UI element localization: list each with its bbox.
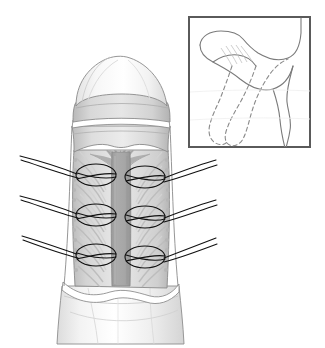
orientation-inset[interactable] bbox=[189, 17, 310, 148]
surgical-illustration-svg bbox=[0, 0, 325, 348]
figure-root: Longitudinal sectional view of the deglo… bbox=[0, 0, 325, 348]
main-figure-group bbox=[57, 56, 184, 344]
